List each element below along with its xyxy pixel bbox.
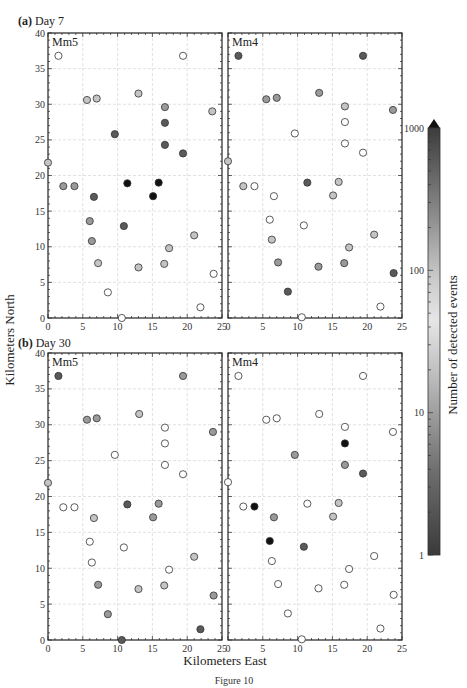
data-point <box>179 471 186 478</box>
data-point <box>371 231 378 238</box>
data-point <box>83 96 90 103</box>
colorbar-tick-label: 100 <box>409 265 424 276</box>
colorbar-tick-label: 10 <box>414 407 424 418</box>
y-tick-label: 15 <box>35 206 45 217</box>
y-tick-label: 20 <box>35 170 45 181</box>
data-point <box>86 538 93 545</box>
data-point <box>251 503 258 510</box>
data-point <box>329 192 336 199</box>
data-point <box>341 118 348 125</box>
data-point <box>197 304 204 311</box>
x-tick-label: 20 <box>182 321 192 332</box>
y-axis-label: Kilometers North <box>2 294 17 386</box>
data-point <box>60 504 67 511</box>
data-point <box>240 183 247 190</box>
data-point <box>135 585 142 592</box>
x-tick-label: 15 <box>147 321 157 332</box>
data-point <box>161 461 168 468</box>
data-point <box>235 52 242 59</box>
data-point <box>335 499 342 506</box>
y-tick-label: 10 <box>35 241 45 252</box>
data-point <box>263 96 270 103</box>
data-point <box>329 513 336 520</box>
data-point <box>291 130 298 137</box>
data-point <box>371 552 378 559</box>
data-point <box>390 270 397 277</box>
x-tick-label: 0 <box>46 321 51 332</box>
data-point <box>275 580 282 587</box>
data-point <box>155 500 162 507</box>
data-point <box>55 52 62 59</box>
colorbar-tick-label: 1000 <box>404 123 424 134</box>
data-point <box>270 514 277 521</box>
panel-title-b: (b)Day 30 <box>18 336 71 350</box>
data-point <box>266 537 273 544</box>
data-point <box>341 260 348 267</box>
data-point <box>263 416 270 423</box>
data-point <box>377 625 384 632</box>
data-point <box>124 180 131 187</box>
data-point <box>90 193 97 200</box>
y-tick-label: 25 <box>35 455 45 466</box>
x-tick-label: 0 <box>46 643 51 654</box>
data-point <box>88 559 95 566</box>
data-point <box>55 372 62 379</box>
colorbar-gradient <box>428 128 440 555</box>
data-point <box>197 626 204 633</box>
data-point <box>284 288 291 295</box>
panel-label-mm4: Mm4 <box>232 355 258 369</box>
data-point <box>300 222 307 229</box>
data-point <box>179 372 186 379</box>
data-point <box>161 440 168 447</box>
y-tick-label: 0 <box>40 313 45 324</box>
data-point <box>161 424 168 431</box>
x-tick-label: 5 <box>80 643 85 654</box>
data-point <box>359 372 366 379</box>
axes-frames <box>48 33 402 640</box>
x-tick-label: 15 <box>147 643 157 654</box>
data-point <box>136 410 143 417</box>
data-point <box>224 479 231 486</box>
x-tick-label: 10 <box>113 321 123 332</box>
panel-a-letter: (a) <box>18 14 32 28</box>
data-point <box>359 470 366 477</box>
panel-b-letter: (b) <box>18 336 33 350</box>
y-tick-label: 5 <box>40 599 45 610</box>
y-tick-label: 25 <box>35 134 45 145</box>
x-tick-label: 10 <box>293 643 303 654</box>
x-tick-label: 20 <box>362 643 372 654</box>
panel-label-mm5: Mm5 <box>52 35 78 49</box>
data-point <box>44 479 51 486</box>
data-point <box>341 423 348 430</box>
data-point <box>266 216 273 223</box>
data-point <box>359 52 366 59</box>
data-point <box>135 264 142 271</box>
y-tick-label: 35 <box>35 63 45 74</box>
data-point <box>240 503 247 510</box>
data-point <box>315 585 322 592</box>
y-tick-label: 10 <box>35 563 45 574</box>
data-point <box>135 90 142 97</box>
data-point <box>161 119 168 126</box>
data-point <box>268 236 275 243</box>
y-tick-label: 30 <box>35 419 45 430</box>
x-tick-label: 5 <box>260 321 265 332</box>
x-tick-label: 0 <box>226 321 231 332</box>
data-point <box>300 543 307 550</box>
data-point <box>86 218 93 225</box>
grid-layer <box>48 33 402 640</box>
data-point <box>298 636 305 643</box>
data-point <box>210 592 217 599</box>
data-point <box>161 104 168 111</box>
x-tick-label: 5 <box>80 321 85 332</box>
panel-label-mm5: Mm5 <box>52 355 78 369</box>
x-tick-label: 25 <box>397 643 407 654</box>
colorbar-label: Number of detected events <box>445 275 460 415</box>
data-point <box>71 504 78 511</box>
y-tick-label: 35 <box>35 383 45 394</box>
data-point <box>191 232 198 239</box>
data-point <box>273 415 280 422</box>
panel-title-a: (a)Day 7 <box>18 14 64 28</box>
data-point <box>149 193 156 200</box>
data-point <box>71 183 78 190</box>
